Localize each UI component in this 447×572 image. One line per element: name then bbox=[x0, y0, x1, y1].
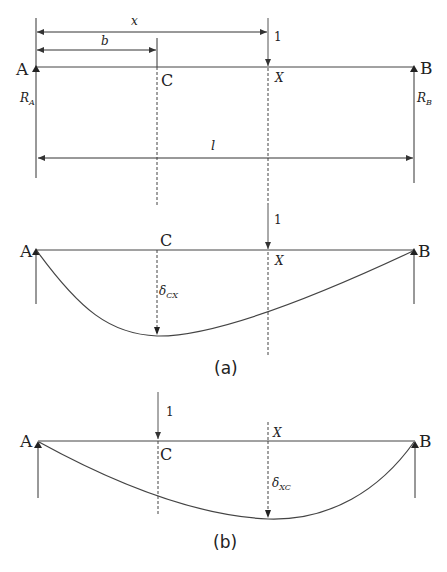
panel-a: 1 A B C X δCX (a) bbox=[19, 205, 431, 378]
panel-b-support-arrow-a bbox=[34, 441, 42, 448]
point-a-label: A bbox=[15, 59, 29, 79]
panel-a-point-a-label: A bbox=[19, 241, 33, 261]
panel-a-deflection-arrowhead bbox=[154, 327, 160, 335]
panel-a-point-c-label: C bbox=[160, 231, 172, 250]
support-arrow-a bbox=[32, 65, 40, 72]
reaction-a-label: RA bbox=[19, 91, 35, 107]
panel-b-deflection-label: δXC bbox=[272, 476, 291, 492]
point-c-label: C bbox=[161, 71, 173, 90]
panel-a-point-x-label: X bbox=[274, 254, 284, 268]
reaction-b-label: RB bbox=[416, 91, 432, 107]
panel-b-point-c-label: C bbox=[160, 445, 172, 464]
panel-b-load-label: 1 bbox=[166, 405, 174, 419]
point-b-label: B bbox=[420, 58, 433, 78]
panel-b-point-a-label: A bbox=[19, 431, 33, 451]
panel-b-point-x-label: X bbox=[272, 426, 282, 440]
panel-a-deflection-curve bbox=[37, 251, 413, 336]
panel-b: 1 A B C X δXC (b) bbox=[19, 392, 432, 552]
panel-a-deflection-label: δCX bbox=[159, 284, 178, 300]
dimension-l-label: l bbox=[211, 138, 215, 153]
panel-b-point-b-label: B bbox=[419, 431, 432, 451]
panel-a-caption: (a) bbox=[214, 358, 238, 378]
unit-load-label: 1 bbox=[274, 30, 282, 44]
point-x-label: X bbox=[274, 71, 284, 85]
top-diagram: x b 1 A B C X RA RB l bbox=[15, 14, 433, 205]
panel-a-load-label: 1 bbox=[274, 213, 282, 227]
panel-b-caption: (b) bbox=[213, 532, 237, 552]
beam-diagram: x b 1 A B C X RA RB l 1 bbox=[0, 0, 447, 572]
panel-a-point-b-label: B bbox=[418, 241, 431, 261]
panel-b-deflection-arrowhead bbox=[265, 510, 271, 518]
dimension-b-label: b bbox=[101, 34, 109, 48]
support-arrow-b bbox=[410, 65, 418, 72]
panel-b-deflection-curve bbox=[39, 442, 414, 519]
dimension-x-label: x bbox=[131, 14, 138, 28]
